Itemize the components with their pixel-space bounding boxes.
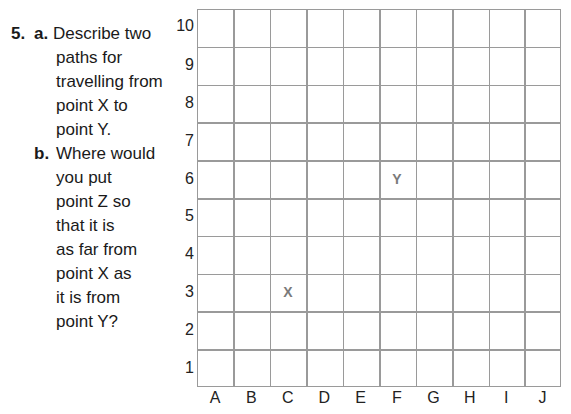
row-label-4: 4	[170, 245, 194, 263]
row-label-10: 10	[170, 17, 194, 35]
row-label-7: 7	[170, 132, 194, 150]
row-label-5: 5	[170, 207, 194, 225]
column-label-i: I	[488, 389, 524, 407]
grid-line	[197, 349, 561, 351]
row-label-9: 9	[170, 56, 194, 74]
grid-line	[197, 274, 561, 276]
column-label-c: C	[270, 389, 306, 407]
part-b-line: as far from	[56, 240, 137, 260]
grid-line	[197, 198, 561, 200]
column-label-e: E	[343, 389, 379, 407]
part-a-line: point X to	[56, 96, 128, 116]
part-a-line: point Y.	[56, 120, 111, 140]
part-b-line: Where would	[56, 144, 155, 164]
part-a-line: Describe two	[53, 24, 151, 44]
row-label-3: 3	[170, 283, 194, 301]
part-b-line: you put	[56, 168, 112, 188]
column-label-j: J	[525, 389, 561, 407]
column-label-a: A	[197, 389, 233, 407]
part-b-line: point X as	[56, 264, 132, 284]
grid-line	[197, 236, 561, 238]
column-label-g: G	[415, 389, 451, 407]
column-label-f: F	[379, 389, 415, 407]
question-number: 5.	[11, 24, 25, 44]
part-b-line: it is from	[56, 288, 120, 308]
grid-line	[197, 311, 561, 313]
part-b-line: point Z so	[56, 192, 131, 212]
row-label-8: 8	[170, 94, 194, 112]
part-b-label: b.	[34, 144, 49, 164]
row-label-6: 6	[170, 170, 194, 188]
grid-line	[197, 85, 561, 87]
part-b-line: that it is	[56, 216, 115, 236]
row-label-1: 1	[170, 359, 194, 377]
column-label-d: D	[306, 389, 342, 407]
point-x-marker: X	[270, 284, 306, 300]
grid-line	[197, 47, 561, 49]
part-a-label: a.	[34, 24, 48, 44]
row-label-2: 2	[170, 321, 194, 339]
point-y-marker: Y	[379, 171, 415, 187]
column-label-h: H	[452, 389, 488, 407]
part-a-line: paths for	[56, 48, 122, 68]
part-a-line: travelling from	[56, 72, 163, 92]
column-label-b: B	[233, 389, 269, 407]
grid-line	[197, 160, 561, 162]
part-b-line: point Y?	[56, 312, 118, 332]
grid-line	[197, 122, 561, 124]
